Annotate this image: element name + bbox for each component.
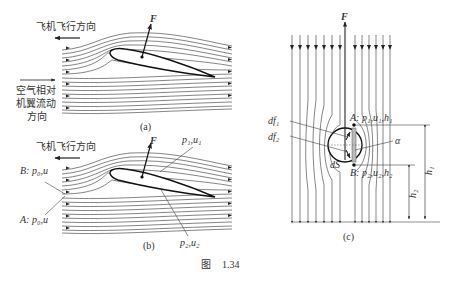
point-b-label: B: p₀,u — [20, 165, 48, 176]
airflow-label-line1: 空气相对 — [16, 84, 56, 96]
upper-surface-label: p₁,u₁ — [181, 134, 201, 145]
df1-label: df₁ — [268, 115, 279, 126]
df2-label: df₂ — [268, 131, 280, 142]
panel-b — [45, 143, 232, 236]
panel-b-label: (b) — [143, 240, 155, 252]
flight-direction-label-b: 飞机飞行方向 — [36, 140, 96, 152]
figure-caption-prefix: 图 — [201, 259, 211, 270]
figure-caption-number: 1.34 — [222, 259, 240, 270]
force-label-a: F — [149, 13, 157, 24]
h2-label: h₂ — [407, 189, 418, 198]
lower-surface-label: p₂,u₂ — [179, 237, 200, 248]
alpha-label: α — [395, 135, 401, 146]
airflow-label-line3: 方向 — [27, 110, 47, 122]
force-label-b: F — [149, 135, 157, 146]
ds-label: dS — [330, 159, 340, 170]
point-b-c-label: B: p₂,u₂,h₂ — [350, 167, 393, 178]
panel-a-label: (a) — [140, 121, 151, 133]
point-a-c-label: A: p₁,u₁,h₁ — [349, 112, 392, 123]
force-label-c: F — [340, 11, 348, 22]
h1-label: h₁ — [423, 167, 434, 175]
panel-c-label: (c) — [343, 231, 354, 243]
flight-direction-label-a: 飞机飞行方向 — [36, 20, 96, 32]
point-a-label: A: p₀,u — [19, 214, 48, 225]
airflow-label-line2: 机翼流动 — [16, 97, 56, 109]
figure-1-34: 飞机飞行方向 F 空气相对 机翼流动 方向 (a) — [0, 0, 449, 289]
